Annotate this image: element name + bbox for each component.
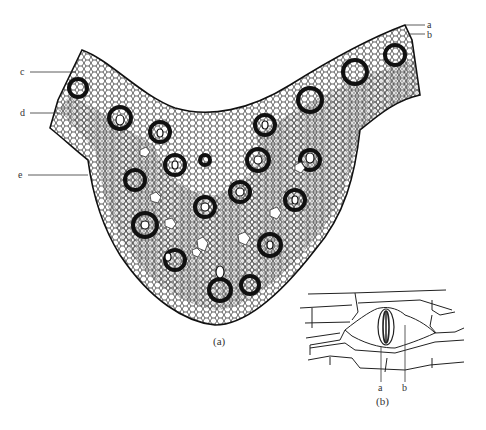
label-b-panel-a: a	[378, 383, 382, 393]
label-d: d	[20, 108, 25, 118]
label-b-panel-b: b	[402, 383, 407, 393]
caption-a: (a)	[213, 336, 225, 347]
label-e: e	[18, 170, 22, 180]
botanical-figure: a b c d e (a) a b (b)	[0, 0, 486, 430]
label-c: c	[20, 67, 24, 77]
stoma-drawing	[300, 290, 464, 382]
caption-b: (b)	[376, 396, 389, 407]
label-b: b	[427, 30, 432, 40]
leaf-cross-section-drawing	[0, 0, 486, 430]
